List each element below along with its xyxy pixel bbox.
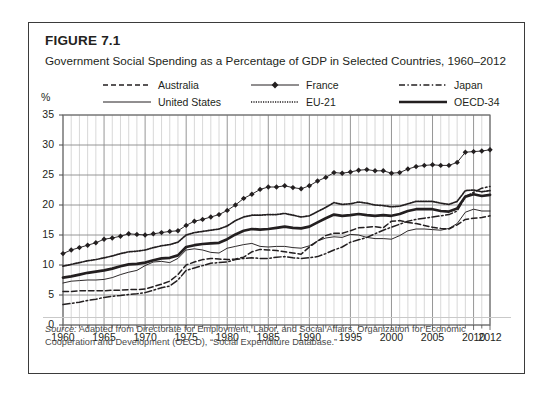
figure-title: Government Social Spending as a Percenta…: [45, 54, 506, 67]
series-marker-france: [397, 170, 402, 175]
series-marker-france: [183, 223, 188, 228]
legend-item-eu-21[interactable]: EU-21: [249, 94, 336, 110]
series-marker-france: [142, 232, 147, 237]
series-marker-france: [266, 184, 271, 189]
legend-swatch-dotted: [249, 96, 301, 108]
series-marker-france: [200, 217, 205, 222]
y-tick-label: 15: [32, 228, 54, 240]
series-marker-france: [69, 247, 74, 252]
legend-label: France: [306, 79, 339, 91]
series-marker-france: [225, 208, 230, 213]
series-marker-france: [454, 160, 459, 165]
legend-label: OECD-34: [454, 96, 500, 108]
series-marker-france: [430, 162, 435, 167]
series-marker-france: [85, 243, 90, 248]
series-marker-france: [208, 214, 213, 219]
series-marker-france: [298, 186, 303, 191]
figure-label: FIGURE 7.1: [45, 33, 121, 48]
series-marker-france: [315, 178, 320, 183]
series-marker-france: [290, 185, 295, 190]
series-marker-france: [364, 167, 369, 172]
series-marker-france: [110, 235, 115, 240]
series-marker-france: [471, 149, 476, 154]
legend-swatch-solid-thick: [397, 96, 449, 108]
y-tick-label: 20: [32, 198, 54, 210]
series-marker-france: [101, 237, 106, 242]
series-marker-france: [77, 245, 82, 250]
y-tick-label: 25: [32, 168, 54, 180]
series-marker-france: [60, 251, 65, 256]
series-marker-france: [175, 228, 180, 233]
series-marker-france: [192, 219, 197, 224]
series-marker-france: [463, 150, 468, 155]
series-marker-france: [479, 148, 484, 153]
series-marker-france: [348, 169, 353, 174]
legend-item-japan[interactable]: Japan: [397, 77, 483, 93]
series-line-france: [63, 150, 490, 254]
series-line-japan: [63, 186, 490, 304]
legend-item-united-states[interactable]: United States: [101, 94, 221, 110]
series-marker-france: [307, 183, 312, 188]
series-line-oecd-34: [63, 194, 490, 277]
series-line-australia: [63, 216, 490, 292]
y-tick-label: 30: [32, 138, 54, 150]
chart-legend: AustraliaFranceJapanUnited StatesEU-21OE…: [101, 77, 501, 111]
legend-swatch-dashdot: [397, 79, 449, 91]
series-marker-france: [233, 202, 238, 207]
y-tick-label: 35: [32, 108, 54, 120]
series-marker-france: [413, 164, 418, 169]
legend-item-france[interactable]: France: [249, 77, 339, 93]
series-line-eu-21: [63, 190, 490, 266]
series-marker-france: [241, 196, 246, 201]
series-marker-france: [118, 234, 123, 239]
legend-swatch-solid-thin: [101, 96, 153, 108]
series-line-united-states: [63, 209, 490, 283]
legend-swatch-solid-thin: [249, 79, 301, 91]
source-label: Source:: [45, 324, 77, 334]
series-marker-france: [405, 166, 410, 171]
series-marker-france: [151, 231, 156, 236]
legend-label: Australia: [158, 79, 199, 91]
legend-item-australia[interactable]: Australia: [101, 77, 199, 93]
divider: [43, 317, 511, 318]
series-marker-france: [216, 212, 221, 217]
series-marker-france: [249, 192, 254, 197]
series-marker-france: [274, 184, 279, 189]
y-axis-unit-label: %: [41, 91, 50, 103]
series-marker-france: [389, 171, 394, 176]
series-marker-france: [282, 183, 287, 188]
series-marker-france: [257, 187, 262, 192]
series-marker-france: [438, 163, 443, 168]
source-note: Source: Adapted from Directorate for Emp…: [45, 323, 510, 350]
series-marker-france: [323, 175, 328, 180]
legend-swatch-dashed: [101, 79, 153, 91]
legend-label: United States: [158, 96, 221, 108]
y-tick-label: 10: [32, 258, 54, 270]
series-marker-france: [159, 230, 164, 235]
source-text: Adapted from Directorate for Employment,…: [45, 324, 466, 347]
figure-card: FIGURE 7.1 Government Social Spending as…: [28, 22, 525, 374]
series-marker-france: [372, 168, 377, 173]
legend-item-oecd-34[interactable]: OECD-34: [397, 94, 500, 110]
series-marker-france: [487, 147, 492, 152]
series-marker-france: [126, 231, 131, 236]
series-marker-france: [93, 240, 98, 245]
y-tick-label: 5: [32, 288, 54, 300]
series-marker-france: [356, 168, 361, 173]
series-marker-france: [446, 163, 451, 168]
legend-label: Japan: [454, 79, 483, 91]
series-marker-france: [331, 170, 336, 175]
series-marker-france: [339, 171, 344, 176]
legend-label: EU-21: [306, 96, 336, 108]
series-marker-france: [167, 229, 172, 234]
series-marker-france: [134, 232, 139, 237]
series-marker-france: [422, 163, 427, 168]
series-marker-france: [381, 168, 386, 173]
